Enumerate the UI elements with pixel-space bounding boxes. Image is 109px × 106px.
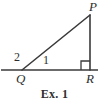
hypotenuse-QP (22, 15, 90, 70)
vertex-label-r: R (86, 72, 94, 85)
vertex-label-q: Q (16, 72, 25, 85)
angle-label-2: 2 (14, 51, 20, 63)
geometry-figure: P Q R 2 1 Ex. 1 (0, 0, 109, 106)
vertex-label-p: P (89, 0, 97, 13)
figure-caption: Ex. 1 (0, 88, 109, 100)
angle-label-1: 1 (43, 54, 49, 66)
right-angle-marker-icon (81, 61, 90, 70)
